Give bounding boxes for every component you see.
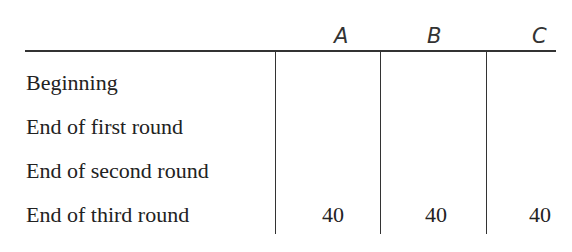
row-label-third-round: End of third round	[26, 202, 189, 228]
column-header-b: B	[427, 24, 441, 48]
row-label-beginning: Beginning	[26, 70, 118, 96]
column-header-c: C	[532, 24, 547, 48]
column-header-a: A	[334, 24, 348, 48]
column-divider-3	[486, 51, 487, 234]
row-label-first-round: End of first round	[26, 114, 183, 140]
cell-third-round-a: 40	[303, 202, 363, 228]
cell-third-round-b: 40	[406, 202, 466, 228]
cell-third-round-c: 40	[510, 202, 570, 228]
column-divider-1	[275, 51, 276, 234]
column-divider-2	[380, 51, 381, 234]
header-rule	[25, 50, 556, 52]
row-label-second-round: End of second round	[26, 158, 209, 184]
